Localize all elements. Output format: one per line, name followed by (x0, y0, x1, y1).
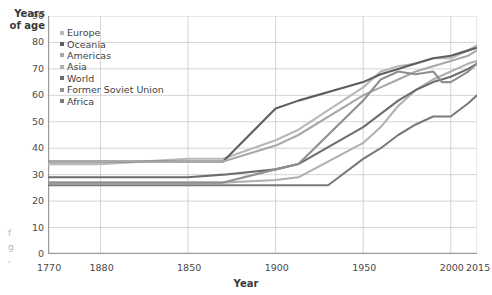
y-tick-label: 30 (18, 169, 44, 180)
legend-item-world[interactable]: World (60, 73, 164, 84)
legend-swatch-icon (60, 65, 64, 69)
legend-item-label: Americas (67, 50, 111, 61)
legend-item-label: World (67, 73, 94, 84)
legend-item-oceania[interactable]: Oceania (60, 38, 164, 49)
legend-item-former-soviet-union[interactable]: Former Soviet Union (60, 84, 164, 95)
chart-legend: EuropeOceaniaAmericasAsiaWorldFormer Sov… (60, 27, 164, 107)
legend-item-europe[interactable]: Europe (60, 27, 164, 38)
x-axis-title: Year (0, 278, 492, 289)
x-tick-label: 2015 (466, 262, 490, 273)
x-tick-label: 2000 (440, 262, 464, 273)
legend-item-label: Africa (67, 96, 94, 107)
x-tick-label: 1880 (90, 262, 114, 273)
legend-item-label: Former Soviet Union (67, 84, 164, 95)
legend-item-asia[interactable]: Asia (60, 61, 164, 72)
edge-fragment: f (8, 228, 11, 238)
edge-fragment: g (8, 242, 14, 252)
y-tick-label: 10 (18, 222, 44, 233)
chart-figure: f g , Years of age Year 0102030405060708… (0, 0, 492, 295)
legend-item-label: Europe (67, 27, 100, 38)
y-tick-label: 40 (18, 142, 44, 153)
y-tick-label: 70 (18, 63, 44, 74)
edge-fragment: , (8, 254, 11, 264)
y-tick-label: 80 (18, 36, 44, 47)
legend-swatch-icon (60, 88, 64, 92)
legend-swatch-icon (60, 99, 64, 103)
y-tick-label: 90 (18, 10, 44, 21)
y-tick-label: 0 (18, 248, 44, 259)
x-tick-label: 1770 (37, 262, 61, 273)
y-tick-label: 20 (18, 195, 44, 206)
legend-item-africa[interactable]: Africa (60, 95, 164, 106)
y-tick-label: 50 (18, 116, 44, 127)
legend-swatch-icon (60, 42, 64, 46)
legend-swatch-icon (60, 53, 64, 57)
x-tick-label: 1950 (352, 262, 376, 273)
y-tick-label: 60 (18, 89, 44, 100)
legend-swatch-icon (60, 76, 64, 80)
x-tick-label: 1850 (177, 262, 201, 273)
legend-item-americas[interactable]: Americas (60, 50, 164, 61)
legend-item-label: Oceania (67, 39, 106, 50)
x-tick-label: 1900 (265, 262, 289, 273)
legend-swatch-icon (60, 31, 64, 35)
legend-item-label: Asia (67, 61, 87, 72)
